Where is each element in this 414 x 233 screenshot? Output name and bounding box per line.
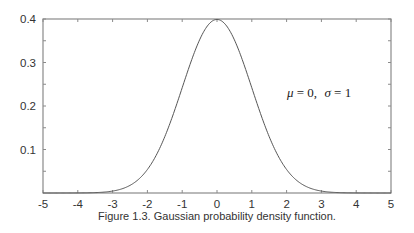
parameter-annotation: μ = 0, σ = 1 bbox=[286, 85, 351, 100]
figure-caption: Figure 1.3. Gaussian probability density… bbox=[0, 210, 414, 222]
x-tick-label: 1 bbox=[249, 198, 255, 210]
x-tick-label: 5 bbox=[388, 198, 394, 210]
mu-symbol: μ bbox=[286, 85, 294, 100]
y-tick-label: 0.4 bbox=[20, 13, 37, 25]
x-tick-label: -3 bbox=[107, 198, 117, 210]
y-tick-label: 0.1 bbox=[20, 144, 36, 156]
mu-value: = 0, bbox=[297, 85, 317, 100]
sigma-value: = 1 bbox=[334, 85, 351, 100]
x-tick-label: -1 bbox=[177, 198, 187, 210]
x-tick-label: 3 bbox=[318, 198, 324, 210]
y-axis-tick-labels: 0.10.20.30.4 bbox=[20, 13, 37, 156]
x-tick-label: -5 bbox=[38, 198, 48, 210]
x-tick-label: 4 bbox=[353, 198, 360, 210]
x-tick-label: 0 bbox=[214, 198, 220, 210]
sigma-symbol: σ bbox=[324, 85, 331, 100]
plot-frame bbox=[43, 19, 391, 193]
x-tick-label: -2 bbox=[142, 198, 152, 210]
axis-ticks bbox=[43, 19, 391, 193]
x-tick-label: -4 bbox=[73, 198, 84, 210]
gaussian-curve bbox=[43, 19, 391, 193]
y-tick-label: 0.3 bbox=[20, 57, 36, 69]
x-axis-tick-labels: -5-4-3-2-1012345 bbox=[38, 198, 394, 210]
x-tick-label: 2 bbox=[283, 198, 289, 210]
y-tick-label: 0.2 bbox=[20, 100, 36, 112]
gaussian-chart: -5-4-3-2-1012345 0.10.20.30.4 μ = 0, σ =… bbox=[0, 0, 414, 233]
